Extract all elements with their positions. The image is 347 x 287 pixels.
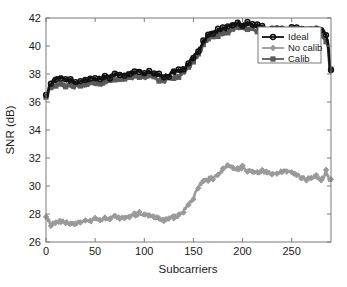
data-point-marker bbox=[98, 82, 102, 86]
x-tick-label: 150 bbox=[184, 245, 202, 257]
data-point-marker bbox=[113, 78, 117, 82]
data-point-marker bbox=[172, 76, 176, 80]
figure-container: 050100150200250 262830323436384042 Subca… bbox=[0, 0, 347, 287]
y-tick-label: 40 bbox=[29, 40, 41, 52]
y-tick-label: 32 bbox=[29, 152, 41, 164]
chart-legend[interactable]: IdealNo calibCalib bbox=[258, 27, 322, 64]
y-tick-label: 42 bbox=[29, 12, 41, 24]
x-tick-label: 100 bbox=[135, 245, 153, 257]
y-tick-label: 28 bbox=[29, 208, 41, 220]
legend-label: No calib bbox=[288, 42, 322, 53]
data-point-marker bbox=[147, 74, 151, 78]
data-point-marker bbox=[245, 27, 249, 31]
x-tick-label: 50 bbox=[89, 245, 101, 257]
x-axis-title: Subcarriers bbox=[159, 263, 218, 275]
y-tick-label: 34 bbox=[29, 124, 41, 136]
y-tick-label: 30 bbox=[29, 180, 41, 192]
data-point-marker bbox=[177, 75, 181, 79]
data-point-marker bbox=[137, 75, 141, 79]
data-point-marker bbox=[157, 79, 161, 83]
y-tick-label: 26 bbox=[29, 236, 41, 248]
data-point-marker bbox=[216, 34, 220, 38]
data-point-marker bbox=[64, 85, 68, 89]
data-point-marker bbox=[59, 82, 63, 86]
x-tick-label: 200 bbox=[233, 245, 251, 257]
data-point-marker bbox=[78, 84, 82, 88]
snr-vs-subcarriers-chart: 050100150200250 262830323436384042 Subca… bbox=[0, 0, 347, 287]
x-tick-label: 250 bbox=[283, 245, 301, 257]
data-point-marker bbox=[54, 84, 58, 88]
y-axis-title: SNR (dB) bbox=[4, 105, 16, 154]
y-tick-label: 38 bbox=[29, 68, 41, 80]
legend-label: Ideal bbox=[288, 31, 309, 42]
x-tick-label: 0 bbox=[43, 245, 49, 257]
y-tick-label: 36 bbox=[29, 96, 41, 108]
legend-label: Calib bbox=[288, 53, 310, 64]
legend-marker-square-icon bbox=[271, 57, 275, 61]
